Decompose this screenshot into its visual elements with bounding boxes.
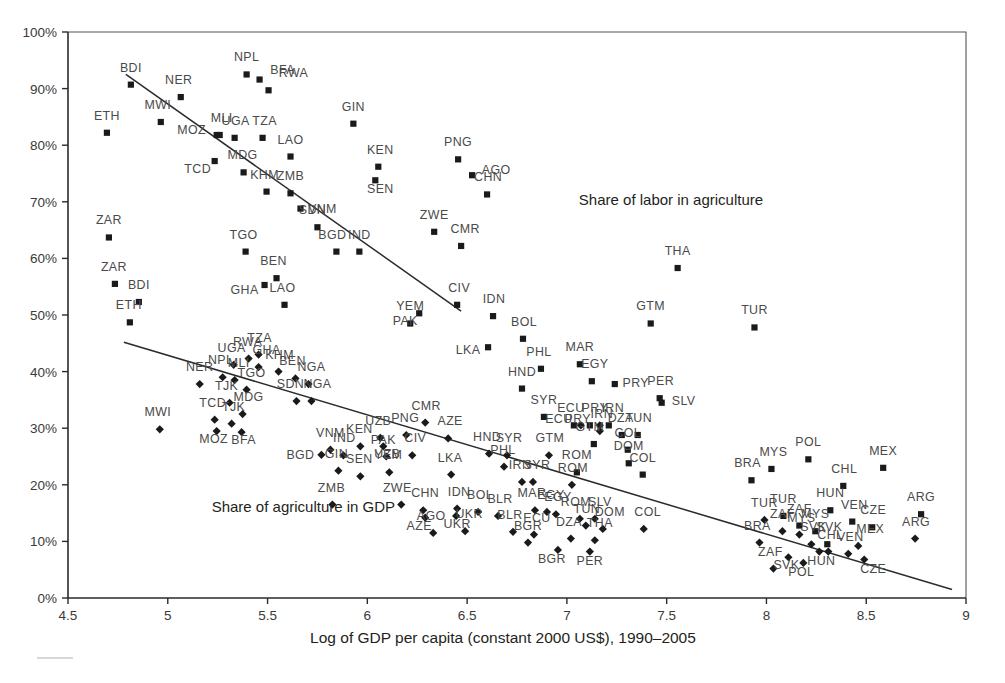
data-point-label: GTM	[536, 431, 565, 445]
data-point-label: MAR	[565, 340, 594, 354]
data-point-marker	[640, 472, 646, 478]
data-point-label: ZMB	[277, 169, 304, 183]
data-point-label: TJK	[222, 400, 246, 414]
data-point-label: BLR	[487, 492, 512, 506]
x-tick-label: 4.5	[59, 608, 78, 623]
data-point-label: KHM	[250, 168, 279, 182]
data-point-label: COL	[634, 505, 661, 519]
data-point-label: KEN	[367, 143, 394, 157]
data-point-label: CZE	[860, 503, 886, 517]
data-point-marker	[292, 397, 300, 405]
x-tick-label: 5	[164, 608, 172, 623]
data-point-label: CHN	[411, 486, 439, 500]
data-point-marker	[778, 527, 786, 535]
data-point-label: MOZ	[177, 123, 206, 137]
data-point-marker	[211, 416, 219, 424]
y-tick-label: 70%	[30, 195, 57, 210]
data-point-marker	[196, 380, 204, 388]
data-point-marker	[333, 249, 339, 255]
data-point-marker	[751, 324, 757, 330]
data-point-marker	[447, 471, 455, 479]
data-point-label: BGD	[318, 228, 346, 242]
data-point-label: UZB	[365, 414, 391, 428]
data-point-label: PAK	[393, 314, 418, 328]
data-point-label: CIV	[448, 281, 470, 295]
data-point-marker	[805, 456, 811, 462]
data-point-marker	[568, 481, 576, 489]
data-point-marker	[538, 366, 544, 372]
data-point-label: AZE	[437, 414, 462, 428]
data-point-label: CIV	[404, 431, 426, 445]
data-point-label: PER	[647, 374, 674, 388]
data-point-label: EGY	[581, 357, 608, 371]
data-point-label: ZAR	[101, 260, 127, 274]
data-point-label: BOL	[511, 315, 537, 329]
data-point-marker	[431, 229, 437, 235]
y-tick-label: 50%	[30, 308, 57, 323]
data-point-marker	[356, 472, 364, 480]
data-point-label: AGO	[417, 509, 446, 523]
data-point-marker	[455, 156, 461, 162]
data-point-marker	[241, 169, 247, 175]
data-point-marker	[244, 71, 250, 77]
data-point-label: SEN	[367, 182, 394, 196]
data-point-label: SYR	[524, 458, 551, 472]
scatter-chart: 0%10%20%30%40%50%60%70%80%90%100%4.555.5…	[0, 0, 1005, 683]
data-point-label: COL	[614, 426, 641, 440]
x-axis-title: Log of GDP per capita (constant 2000 US$…	[310, 629, 696, 646]
data-point-marker	[640, 525, 648, 533]
data-point-marker	[444, 434, 452, 442]
data-point-label: BDI	[120, 61, 142, 75]
y-tick-label: 20%	[30, 478, 57, 493]
data-point-label: BRA	[744, 519, 771, 533]
data-point-label: NER	[165, 73, 192, 87]
y-tick-label: 0%	[37, 591, 57, 606]
data-point-label: ETH	[94, 109, 120, 123]
y-tick-label: 60%	[30, 251, 57, 266]
data-point-label: ARG	[907, 490, 935, 504]
data-point-marker	[261, 282, 267, 288]
data-point-label: PRY	[623, 376, 649, 390]
y-tick-label: 30%	[30, 421, 57, 436]
data-point-marker	[128, 82, 134, 88]
data-point-marker	[256, 76, 262, 82]
x-tick-label: 7.5	[657, 608, 676, 623]
data-point-marker	[589, 378, 595, 384]
data-point-marker	[648, 320, 654, 326]
data-point-marker	[265, 87, 271, 93]
data-point-label: PNG	[391, 411, 419, 425]
data-point-marker	[612, 381, 618, 387]
data-point-label: LKA	[456, 343, 481, 357]
data-point-marker	[849, 518, 855, 524]
data-point-marker	[880, 465, 886, 471]
footer-rule	[37, 657, 73, 659]
data-point-label: RWA	[279, 66, 309, 80]
data-point-label: BRA	[734, 456, 761, 470]
x-tick-label: 6	[364, 608, 372, 623]
data-point-label: PER	[576, 554, 603, 568]
data-point-marker	[178, 94, 184, 100]
data-point-label: SYR	[531, 393, 558, 407]
data-point-label: NGA	[303, 377, 331, 391]
data-point-label: MWI	[144, 405, 171, 419]
data-point-label: BEN	[260, 254, 287, 268]
data-point-label: MEX	[869, 444, 897, 458]
data-point-marker	[591, 536, 599, 544]
data-point-label: TGO	[238, 366, 266, 380]
data-point-label: IDN	[483, 292, 506, 306]
data-point-marker	[911, 534, 919, 542]
data-point-marker	[519, 385, 525, 391]
data-point-label: NGA	[297, 360, 325, 374]
data-point-label: GTM	[636, 299, 665, 313]
data-point-label: ROM	[558, 461, 588, 475]
data-point-label: GIN	[342, 100, 365, 114]
data-point-label: THA	[587, 516, 613, 530]
data-point-marker	[212, 158, 218, 164]
data-point-marker	[659, 400, 665, 406]
data-point-label: YEM	[374, 448, 402, 462]
data-point-marker	[397, 501, 405, 509]
data-point-label: CMR	[411, 399, 440, 413]
data-point-marker	[287, 190, 293, 196]
data-point-label: ZAR	[96, 213, 122, 227]
series-annotation: Share of agriculture in GDP	[212, 498, 395, 515]
